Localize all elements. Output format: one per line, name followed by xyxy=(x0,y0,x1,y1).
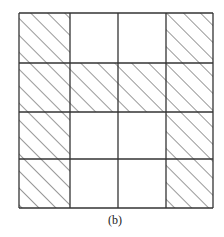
empty-cell xyxy=(70,13,118,63)
hatched-cell xyxy=(166,63,213,112)
hatched-cell xyxy=(118,63,166,112)
empty-cell xyxy=(70,159,118,208)
hatched-cell xyxy=(70,63,118,112)
empty-cell xyxy=(70,112,118,159)
hatched-cell xyxy=(19,13,70,63)
figure-label: (b) xyxy=(0,213,224,228)
hatched-cell xyxy=(19,159,70,208)
hatched-cell xyxy=(166,112,213,159)
hatched-cell xyxy=(19,63,70,112)
grid-cells xyxy=(19,13,213,208)
hatched-cell xyxy=(166,159,213,208)
empty-cell xyxy=(118,112,166,159)
hatched-cell xyxy=(166,13,213,63)
empty-cell xyxy=(118,159,166,208)
hatched-grid-diagram xyxy=(0,0,224,237)
empty-cell xyxy=(118,13,166,63)
hatched-cell xyxy=(19,112,70,159)
